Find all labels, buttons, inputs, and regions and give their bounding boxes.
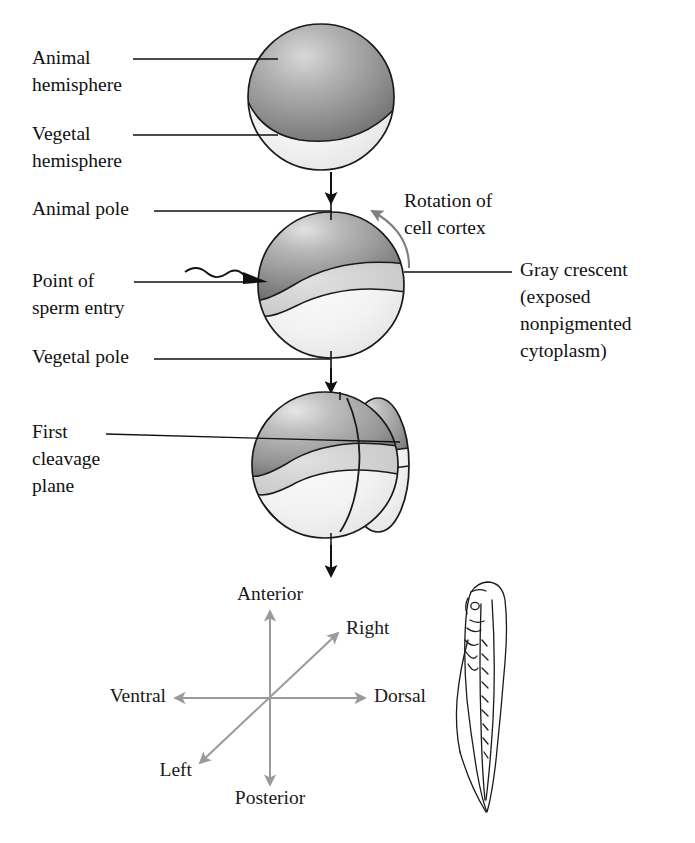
tadpole-body-outline bbox=[465, 582, 507, 812]
label-first-cleavage-plane-line3: plane bbox=[32, 475, 74, 496]
tadpole-larva-illustration bbox=[456, 582, 506, 812]
embryo-axis-diagram: Animal hemisphere Vegetal hemisphere bbox=[0, 0, 695, 843]
label-rotation-of-cell-cortex-line2: cell cortex bbox=[404, 217, 486, 238]
label-vegetal-hemisphere-line1: Vegetal bbox=[32, 123, 91, 144]
tadpole-somite-8 bbox=[483, 738, 488, 744]
tadpole-somite-9 bbox=[484, 752, 488, 758]
tadpole-somite-6 bbox=[482, 710, 488, 716]
tadpole-gill-line-1 bbox=[467, 628, 481, 632]
stage-2-fertilized-egg: Animal pole Point of sperm entry Vegetal… bbox=[32, 190, 632, 368]
tadpole-mouth-line bbox=[470, 620, 484, 622]
label-first-cleavage-plane-line1: First bbox=[32, 421, 68, 442]
egg-2-body bbox=[250, 205, 412, 362]
label-gray-crescent-line1: Gray crescent bbox=[520, 259, 628, 280]
tadpole-eye-icon bbox=[471, 602, 479, 609]
tadpole-somite-1 bbox=[482, 640, 487, 646]
label-first-cleavage-plane-line2: cleavage bbox=[32, 448, 100, 469]
tadpole-somite-7 bbox=[483, 724, 488, 730]
tadpole-gill-line-3 bbox=[466, 652, 477, 658]
egg-1-animal-hemisphere bbox=[246, 20, 398, 141]
tadpole-notochord-line bbox=[486, 600, 494, 800]
tadpole-tail-inner-line bbox=[480, 604, 485, 800]
label-vegetal-pole: Vegetal pole bbox=[32, 346, 129, 367]
label-point-of-sperm-entry-line2: sperm entry bbox=[32, 297, 125, 318]
label-gray-crescent-line3: nonpigmented bbox=[520, 313, 632, 334]
label-gray-crescent-line2: (exposed bbox=[520, 286, 591, 308]
stage-3-two-cell-embryo: First cleavage plane bbox=[32, 392, 409, 545]
label-animal-hemisphere-line2: hemisphere bbox=[32, 74, 122, 95]
compass-label-anterior: Anterior bbox=[237, 583, 304, 604]
compass-label-left: Left bbox=[160, 759, 193, 780]
tadpole-somite-3 bbox=[482, 668, 488, 674]
compass-label-ventral: Ventral bbox=[110, 685, 167, 706]
sperm-tail bbox=[185, 268, 245, 277]
tadpole-somite-4 bbox=[482, 682, 488, 688]
compass-label-posterior: Posterior bbox=[235, 787, 306, 808]
label-vegetal-hemisphere-line2: hemisphere bbox=[32, 150, 122, 171]
label-rotation-of-cell-cortex-line1: Rotation of bbox=[404, 190, 493, 211]
tadpole-somite-2 bbox=[482, 654, 488, 660]
tadpole-fin-fold-line bbox=[468, 664, 478, 670]
label-animal-hemisphere-line1: Animal bbox=[32, 47, 91, 68]
body-axes-compass: Anterior Posterior Ventral Dorsal Right … bbox=[110, 583, 427, 808]
figure-page: Animal hemisphere Vegetal hemisphere bbox=[0, 0, 695, 843]
compass-label-dorsal: Dorsal bbox=[374, 685, 427, 706]
label-point-of-sperm-entry-line1: Point of bbox=[32, 270, 95, 291]
compass-label-right: Right bbox=[346, 617, 390, 638]
tadpole-somite-5 bbox=[482, 696, 488, 702]
label-gray-crescent-line4: cytoplasm) bbox=[520, 340, 607, 362]
stage-1-unfertilized-egg: Animal hemisphere Vegetal hemisphere bbox=[32, 20, 398, 171]
label-animal-pole: Animal pole bbox=[32, 198, 129, 219]
